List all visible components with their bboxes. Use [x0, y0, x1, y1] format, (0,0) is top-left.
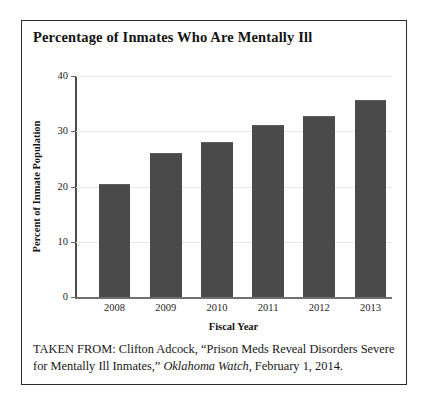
y-axis-tick-label: 10 [38, 237, 68, 248]
x-axis-tick-label: 2013 [345, 303, 396, 314]
x-axis-tick-label: 2012 [294, 303, 345, 314]
y-axis-tick-label: 30 [38, 126, 68, 137]
bar [150, 153, 182, 297]
y-axis-tick-label: 20 [38, 182, 68, 193]
y-axis-tick-label: 40 [38, 71, 68, 82]
x-axis-line [75, 297, 392, 299]
x-axis-tick-label: 2009 [140, 303, 191, 314]
caption-publication: Oklahoma Watch [163, 359, 248, 373]
y-axis-tick [71, 297, 75, 298]
x-axis-title: Fiscal Year [75, 321, 392, 332]
plot-area: 010203040 200820092010201120122013 [75, 76, 392, 297]
bar [201, 142, 233, 297]
bar [252, 125, 284, 297]
caption-suffix: , February 1, 2014. [249, 359, 343, 373]
y-axis-tick [71, 187, 75, 188]
source-caption: TAKEN FROM: Clifton Adcock, “Prison Meds… [33, 341, 395, 375]
y-axis-tick [71, 131, 75, 132]
bar [303, 116, 335, 297]
x-axis-tick-label: 2008 [89, 303, 140, 314]
y-axis-tick [71, 76, 75, 77]
chart-title: Percentage of Inmates Who Are Mentally I… [33, 29, 312, 46]
bar [99, 184, 131, 297]
x-axis-tick-label: 2011 [243, 303, 294, 314]
y-axis-tick [71, 242, 75, 243]
y-axis-tick-label: 0 [38, 292, 68, 303]
gridline [76, 76, 392, 77]
chart-area: Percent of Inmate Population 010203040 2… [22, 57, 408, 327]
bar [355, 100, 387, 297]
x-axis-tick-label: 2010 [191, 303, 242, 314]
gridline [76, 131, 392, 132]
figure-frame: Percentage of Inmates Who Are Mentally I… [21, 20, 407, 385]
